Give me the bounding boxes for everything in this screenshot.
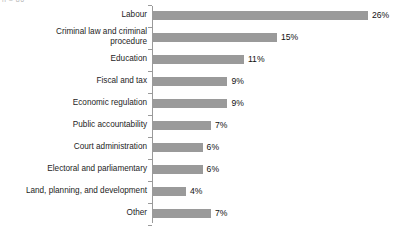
category-label: Electoral and parliamentary: [0, 164, 147, 174]
bar-row: Electoral and parliamentary6%: [0, 159, 405, 181]
bar-row: Labour26%: [0, 5, 405, 27]
category-label: Other: [0, 208, 147, 218]
bar: [153, 55, 244, 64]
bar-value-label: 15%: [281, 31, 298, 43]
horizontal-bar-chart: n = 86 Labour26%Criminal law and crimina…: [0, 0, 405, 238]
bar: [153, 11, 368, 20]
bar-value-label: 9%: [231, 97, 243, 109]
category-label: Court administration: [0, 142, 147, 152]
plot-area: Labour26%Criminal law and criminal proce…: [0, 0, 405, 238]
bar-value-label: 7%: [215, 207, 227, 219]
bar-value-label: 4%: [190, 185, 202, 197]
bar: [153, 121, 211, 130]
axis-tick: [148, 93, 152, 94]
axis-tick: [148, 159, 152, 160]
bar: [153, 209, 211, 218]
category-label: Land, planning, and development: [0, 186, 147, 196]
bar: [153, 77, 227, 86]
bar-row: Education11%: [0, 49, 405, 71]
bar: [153, 99, 227, 108]
bar-value-label: 11%: [248, 53, 265, 65]
bar-row: Criminal law and criminal procedure15%: [0, 27, 405, 49]
bar-row: Public accountability7%: [0, 115, 405, 137]
axis-tick: [148, 137, 152, 138]
bar-value-label: 6%: [207, 141, 219, 153]
axis-tick: [148, 5, 152, 6]
bar: [153, 187, 186, 196]
bar-value-label: 26%: [372, 9, 389, 21]
axis-tick: [148, 115, 152, 116]
bar: [153, 165, 203, 174]
category-label: Labour: [0, 10, 147, 20]
bar: [153, 33, 277, 42]
category-label: Education: [0, 54, 147, 64]
axis-tick: [148, 203, 152, 204]
category-label: Economic regulation: [0, 98, 147, 108]
category-label: Public accountability: [0, 120, 147, 130]
bar-row: Court administration6%: [0, 137, 405, 159]
bar-row: Other7%: [0, 203, 405, 225]
bar-row: Fiscal and tax9%: [0, 71, 405, 93]
category-label: Criminal law and criminal procedure: [0, 27, 147, 47]
bar-row: Land, planning, and development4%: [0, 181, 405, 203]
axis-tick: [148, 225, 152, 226]
axis-tick: [148, 27, 152, 28]
category-label: Fiscal and tax: [0, 76, 147, 86]
bar-row: Economic regulation9%: [0, 93, 405, 115]
axis-tick: [148, 49, 152, 50]
bar-value-label: 6%: [207, 163, 219, 175]
bar-value-label: 7%: [215, 119, 227, 131]
axis-tick: [148, 181, 152, 182]
bar-value-label: 9%: [231, 75, 243, 87]
bar: [153, 143, 203, 152]
axis-tick: [148, 71, 152, 72]
